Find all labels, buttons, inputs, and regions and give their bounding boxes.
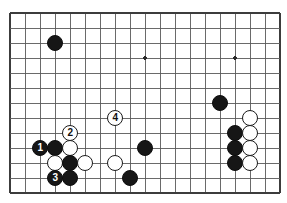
move-number-label: 1 xyxy=(37,143,42,153)
move-number-label: 3 xyxy=(52,173,57,183)
move-number-label: 4 xyxy=(112,113,117,123)
star-point xyxy=(233,56,237,60)
move-number-label: 2 xyxy=(67,128,72,138)
go-board-diagram: 1234 xyxy=(0,0,287,203)
board-grid xyxy=(0,0,287,203)
star-point xyxy=(143,56,147,60)
